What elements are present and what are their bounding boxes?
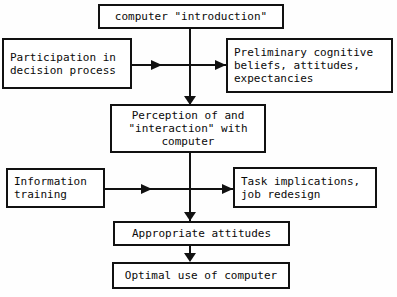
flowchart-canvas: computer "introduction" Participation in… (0, 0, 397, 297)
node-label: Information training (14, 175, 87, 201)
node-perception-interaction-computer[interactable]: Perception of and "interaction" with com… (110, 104, 266, 153)
node-label: Participation in decision process (10, 51, 116, 77)
node-preliminary-cognitive-beliefs[interactable]: Preliminary cognitive beliefs, attitudes… (226, 38, 393, 93)
arrowhead-into-preliminary (215, 60, 226, 70)
arrowhead-into-task-implications (222, 184, 233, 194)
arrowhead-mid-row1 (151, 60, 162, 70)
node-optimal-use-of-computer[interactable]: Optimal use of computer (112, 262, 290, 289)
node-task-implications-job-redesign[interactable]: Task implications, job redesign (233, 167, 377, 208)
node-label: Appropriate attitudes (132, 227, 271, 240)
arrowhead-mid-row2 (141, 184, 152, 194)
node-label: Optimal use of computer (125, 269, 277, 282)
arrowhead-into-optimal-use (184, 253, 196, 262)
connector-training-to-task-implications (105, 188, 233, 190)
connector-intro-to-perception (189, 29, 191, 105)
node-label: Perception of and "interaction" with com… (128, 109, 247, 148)
node-appropriate-attitudes[interactable]: Appropriate attitudes (113, 221, 290, 246)
node-participation-decision-process[interactable]: Participation in decision process (2, 38, 132, 89)
node-label: Task implications, job redesign (241, 175, 360, 201)
node-label: computer "introduction" (115, 10, 267, 23)
node-information-training[interactable]: Information training (6, 168, 105, 208)
connector-participation-to-preliminary (132, 64, 226, 66)
node-computer-introduction[interactable]: computer "introduction" (98, 4, 284, 29)
node-label: Preliminary cognitive beliefs, attitudes… (234, 46, 373, 85)
arrowhead-into-attitudes (184, 212, 196, 221)
